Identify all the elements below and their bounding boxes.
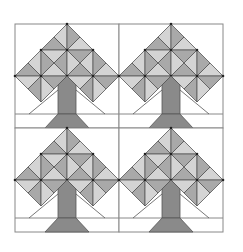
node-dot [144, 153, 147, 156]
node-dot [14, 75, 17, 78]
tree-bottom-left [14, 127, 121, 232]
node-dot [66, 49, 69, 52]
node-dot [144, 49, 147, 52]
node-dot [196, 179, 199, 182]
tree-top-left [14, 23, 121, 128]
node-dot [92, 49, 95, 52]
node-dot [118, 179, 121, 182]
node-dot [170, 23, 173, 26]
node-dot [222, 75, 225, 78]
node-dot [40, 153, 43, 156]
node-dot [92, 153, 95, 156]
node-dot [170, 49, 173, 52]
node-dot [40, 179, 43, 182]
node-dot [144, 75, 147, 78]
tree-top-right [118, 23, 225, 128]
node-dot [40, 75, 43, 78]
quilt-figure [0, 0, 243, 252]
node-dot [196, 75, 199, 78]
node-dot [118, 75, 121, 78]
node-dot [92, 179, 95, 182]
node-dot [170, 127, 173, 130]
node-dot [196, 49, 199, 52]
node-dot [196, 153, 199, 156]
node-dot [144, 179, 147, 182]
node-dot [66, 153, 69, 156]
node-dot [170, 153, 173, 156]
tree-bottom-right [118, 127, 225, 232]
node-dot [66, 23, 69, 26]
node-dot [92, 75, 95, 78]
node-dot [66, 127, 69, 130]
node-dot [222, 179, 225, 182]
node-dot [40, 49, 43, 52]
node-dot [14, 179, 17, 182]
